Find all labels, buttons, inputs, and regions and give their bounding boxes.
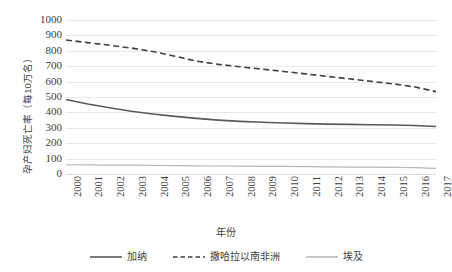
- plot-area: [66, 20, 436, 174]
- legend-item[interactable]: 加纳: [90, 252, 147, 262]
- y-axis-tick-label: 300: [20, 122, 62, 133]
- legend-line-swatch: [306, 252, 338, 262]
- x-axis-tick-label: 2013: [354, 176, 365, 220]
- y-axis-tick-label: 500: [20, 91, 62, 102]
- x-axis-title: 年份: [0, 224, 452, 239]
- x-axis-tick-label: 2010: [289, 176, 300, 220]
- x-axis-tick-label: 2003: [137, 176, 148, 220]
- y-axis-tick-label: 900: [20, 29, 62, 40]
- x-axis-tick-label: 2017: [442, 176, 452, 220]
- x-axis-tick-label: 2009: [267, 176, 278, 220]
- x-axis-tick-label: 2015: [398, 176, 409, 220]
- legend-label: 加纳: [127, 252, 147, 262]
- x-axis-tick-label: 2008: [246, 176, 257, 220]
- series-line: [66, 40, 436, 92]
- x-axis-tick-label: 2011: [311, 176, 322, 220]
- chart-legend: 加纳撒哈拉以南非洲埃及: [0, 248, 452, 266]
- y-axis-tick-label: 600: [20, 76, 62, 87]
- y-axis-tick-label: 700: [20, 60, 62, 71]
- y-axis-tick-label: 0: [20, 168, 62, 179]
- series-line: [66, 165, 436, 169]
- x-axis-tick-label: 2014: [376, 176, 387, 220]
- x-axis-tick-labels: 2000200120022003200420052006200720082009…: [66, 176, 436, 224]
- x-axis-tick-label: 2016: [420, 176, 431, 220]
- x-axis-tick-label: 2004: [159, 176, 170, 220]
- legend-line-swatch: [173, 252, 205, 262]
- y-axis-tick-labels: 10009008007006005004003002001000: [20, 0, 62, 195]
- y-axis-tick-label: 1000: [20, 14, 62, 25]
- series-line: [66, 99, 436, 126]
- x-axis-tick-label: 2001: [93, 176, 104, 220]
- x-axis-tick-label: 2005: [180, 176, 191, 220]
- y-axis-tick-label: 200: [20, 137, 62, 148]
- line-chart: 孕产妇死亡率（每10万名） 10009008007006005004003002…: [0, 0, 452, 272]
- x-axis-tick-label: 2002: [115, 176, 126, 220]
- y-axis-tick-label: 400: [20, 106, 62, 117]
- x-axis-tick-label: 2012: [333, 176, 344, 220]
- legend-label: 撒哈拉以南非洲: [210, 252, 280, 262]
- y-axis-tick-label: 100: [20, 153, 62, 164]
- x-axis-tick-label: 2000: [72, 176, 83, 220]
- legend-label: 埃及: [343, 252, 363, 262]
- y-axis-tick-label: 800: [20, 45, 62, 56]
- x-axis-tick-label: 2007: [224, 176, 235, 220]
- legend-item[interactable]: 埃及: [306, 252, 363, 262]
- legend-line-swatch: [90, 252, 122, 262]
- series-lines: [66, 20, 436, 174]
- x-axis-tick-label: 2006: [202, 176, 213, 220]
- legend-item[interactable]: 撒哈拉以南非洲: [173, 252, 280, 262]
- x-axis-line: [66, 174, 436, 175]
